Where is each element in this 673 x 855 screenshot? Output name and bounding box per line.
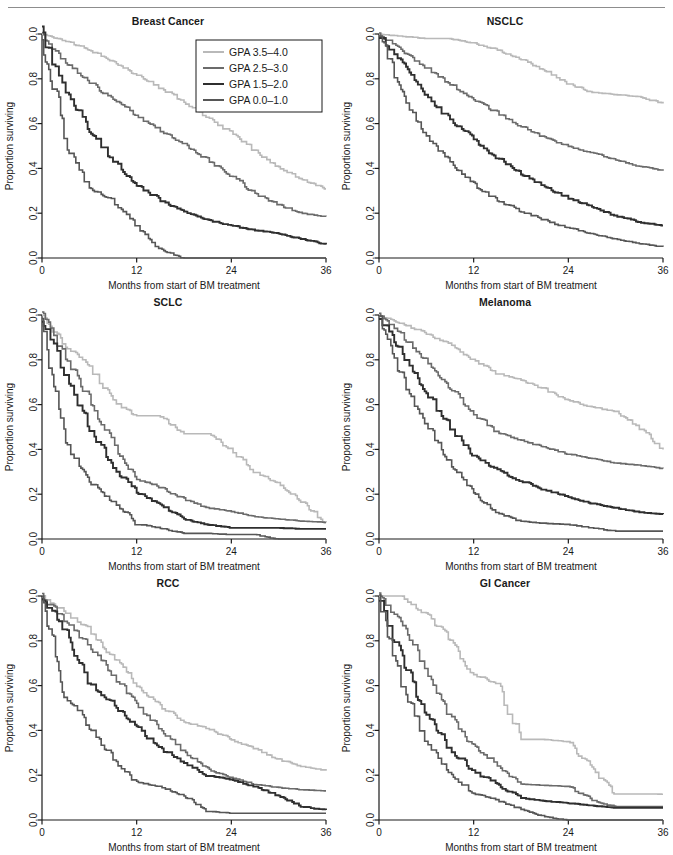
legend-label: GPA 1.5–2.0	[229, 78, 288, 90]
x-tick-label: 12	[468, 827, 480, 838]
y-tick-label: 0.0	[365, 308, 376, 322]
x-tick-label: 24	[226, 827, 238, 838]
x-tick-label: 36	[320, 546, 332, 557]
survival-curve	[379, 316, 663, 531]
x-tick-label: 36	[320, 827, 332, 838]
survival-curve	[379, 36, 663, 246]
x-tick-label: 12	[131, 827, 143, 838]
y-tick-label: 0.0	[28, 532, 39, 546]
x-tick-label: 24	[563, 265, 575, 276]
y-tick-label: 0.0	[365, 251, 376, 265]
y-axis-label: Proportion surviving	[4, 664, 15, 752]
y-tick-label: 0.2	[365, 206, 376, 220]
survival-curve	[42, 318, 326, 539]
y-tick-label: 0.8	[28, 633, 39, 647]
y-tick-label: 0.8	[28, 71, 39, 85]
y-tick-label: 0.4	[28, 723, 39, 737]
panel-breast-cancer: Breast Cancer01224360.00.80.60.40.20.0Mo…	[0, 14, 336, 294]
survival-curve	[379, 593, 663, 807]
y-tick-label: 0.0	[28, 589, 39, 603]
y-tick-label: 0.0	[365, 532, 376, 546]
y-tick-label: 0.8	[365, 71, 376, 85]
x-tick-label: 12	[131, 265, 143, 276]
x-tick-label: 24	[226, 546, 238, 557]
legend-label: GPA 3.5–4.0	[229, 46, 288, 58]
y-axis-label: Proportion surviving	[341, 664, 352, 752]
header-rule	[8, 7, 665, 8]
y-tick-label: 0.2	[28, 206, 39, 220]
y-tick-label: 0.4	[28, 442, 39, 456]
x-tick-label: 0	[39, 827, 45, 838]
y-tick-label: 0.8	[28, 352, 39, 366]
y-tick-label: 0.2	[28, 768, 39, 782]
km-plot: 01224360.00.80.60.40.20.0Months from sta…	[0, 295, 336, 575]
y-tick-label: 0.8	[365, 352, 376, 366]
survival-curve	[42, 599, 326, 810]
y-axis-label: Proportion surviving	[341, 102, 352, 190]
y-tick-label: 0.0	[28, 308, 39, 322]
y-tick-label: 0.4	[28, 161, 39, 175]
km-plot: 01224360.00.80.60.40.20.0Months from sta…	[0, 14, 336, 294]
y-tick-label: 0.6	[28, 397, 39, 411]
x-axis-label: Months from start of BM treatment	[445, 842, 597, 853]
panel-rcc: RCC01224360.00.80.60.40.20.0Months from …	[0, 576, 336, 855]
x-tick-label: 36	[657, 265, 669, 276]
panel-melanoma: Melanoma01224360.00.80.60.40.20.0Months …	[337, 295, 673, 575]
km-plot: 01224360.00.80.60.40.20.0Months from sta…	[337, 576, 673, 855]
survival-curve	[42, 596, 326, 771]
x-axis-label: Months from start of BM treatment	[445, 280, 597, 291]
y-tick-label: 0.0	[365, 589, 376, 603]
y-tick-label: 0.6	[28, 678, 39, 692]
y-tick-label: 0.6	[365, 678, 376, 692]
panel-nsclc: NSCLC01224360.00.80.60.40.20.0Months fro…	[337, 14, 673, 294]
x-tick-label: 36	[657, 827, 669, 838]
x-axis-label: Months from start of BM treatment	[108, 842, 260, 853]
survival-curve	[42, 315, 326, 522]
x-axis-label: Months from start of BM treatment	[445, 561, 597, 572]
x-tick-label: 12	[468, 546, 480, 557]
y-tick-label: 0.0	[365, 27, 376, 41]
x-tick-label: 0	[39, 265, 45, 276]
figure-panel-grid: Breast Cancer01224360.00.80.60.40.20.0Mo…	[0, 14, 673, 855]
x-tick-label: 12	[131, 546, 143, 557]
y-tick-label: 0.0	[365, 813, 376, 827]
legend-label: GPA 2.5–3.0	[229, 62, 288, 74]
survival-curve	[379, 33, 663, 171]
y-tick-label: 0.8	[365, 633, 376, 647]
x-tick-label: 0	[376, 827, 382, 838]
y-tick-label: 0.4	[365, 161, 376, 175]
legend: GPA 3.5–4.0GPA 2.5–3.0GPA 1.5–2.0GPA 0.0…	[196, 40, 322, 112]
survival-curve	[42, 312, 326, 522]
survival-curve	[379, 38, 663, 226]
x-tick-label: 36	[320, 265, 332, 276]
x-axis-label: Months from start of BM treatment	[108, 561, 260, 572]
x-tick-label: 36	[657, 546, 669, 557]
survival-curve	[379, 596, 663, 794]
km-plot: 01224360.00.80.60.40.20.0Months from sta…	[337, 14, 673, 294]
y-axis-label: Proportion surviving	[341, 383, 352, 471]
y-tick-label: 0.2	[28, 487, 39, 501]
x-tick-label: 24	[563, 546, 575, 557]
survival-curve	[379, 595, 663, 820]
x-tick-label: 0	[39, 546, 45, 557]
panel-gi-cancer: GI Cancer01224360.00.80.60.40.20.0Months…	[337, 576, 673, 855]
survival-curve	[42, 596, 326, 813]
panel-sclc: SCLC01224360.00.80.60.40.20.0Months from…	[0, 295, 336, 575]
survival-curve	[379, 34, 663, 103]
y-axis-label: Proportion surviving	[4, 383, 15, 471]
y-tick-label: 0.4	[365, 723, 376, 737]
y-tick-label: 0.2	[365, 768, 376, 782]
y-tick-label: 0.0	[28, 251, 39, 265]
km-plot: 01224360.00.80.60.40.20.0Months from sta…	[337, 295, 673, 575]
y-tick-label: 0.6	[28, 116, 39, 130]
survival-curve	[379, 313, 663, 468]
y-tick-label: 0.6	[365, 116, 376, 130]
legend-label: GPA 0.0–1.0	[229, 94, 288, 106]
x-axis-label: Months from start of BM treatment	[108, 280, 260, 291]
y-tick-label: 0.0	[28, 27, 39, 41]
x-tick-label: 24	[563, 827, 575, 838]
y-axis-label: Proportion surviving	[4, 102, 15, 190]
x-tick-label: 24	[226, 265, 238, 276]
y-tick-label: 0.2	[365, 487, 376, 501]
x-tick-label: 12	[468, 265, 480, 276]
